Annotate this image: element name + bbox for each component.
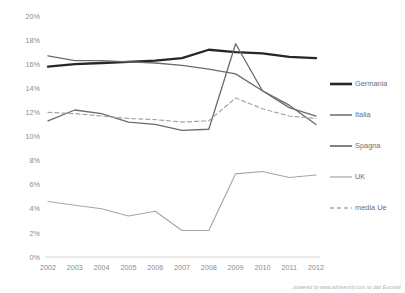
series-line-germania <box>48 50 316 67</box>
x-axis-tick-label: 2002 <box>40 263 56 272</box>
y-axis-tick-label: 20% <box>26 12 41 21</box>
y-axis-tick-label: 0% <box>30 253 41 262</box>
legend-label-germania: Germania <box>355 79 388 88</box>
footer-credit: powered by www.adviseonly.com su dati Eu… <box>294 285 401 290</box>
legend-label-italia: Italia <box>355 110 372 119</box>
x-axis-tick-label: 2006 <box>147 263 163 272</box>
legend-label-spagna: Spagna <box>355 141 381 150</box>
x-axis: 2002200320042005200620072008200920102011… <box>40 263 324 272</box>
y-axis-tick-label: 16% <box>26 60 41 69</box>
y-axis-tick-label: 12% <box>26 108 41 117</box>
chart-canvas: 0%2%4%6%8%10%12%14%16%18%20% 20022003200… <box>0 0 405 293</box>
series-line-italia <box>48 44 316 131</box>
y-axis: 0%2%4%6%8%10%12%14%16%18%20% <box>26 12 41 262</box>
x-axis-tick-label: 2003 <box>67 263 83 272</box>
x-axis-tick-label: 2010 <box>254 263 270 272</box>
x-axis-tick-label: 2012 <box>308 263 324 272</box>
legend-label-media-ue: media Ue <box>355 203 387 212</box>
series-line-uk <box>48 171 316 230</box>
x-axis-tick-label: 2011 <box>281 263 296 272</box>
series-line-spagna <box>48 56 316 125</box>
x-axis-tick-label: 2008 <box>201 263 217 272</box>
y-axis-tick-label: 10% <box>26 132 41 141</box>
x-axis-tick-label: 2005 <box>120 263 136 272</box>
y-axis-tick-label: 8% <box>30 156 41 165</box>
y-axis-tick-label: 14% <box>26 84 41 93</box>
chart-legend: GermaniaItaliaSpagnaUKmedia Ue <box>330 79 388 212</box>
x-axis-tick-label: 2007 <box>174 263 190 272</box>
y-axis-tick-label: 18% <box>26 36 41 45</box>
y-axis-tick-label: 6% <box>30 180 41 189</box>
series-line-media-ue <box>48 98 316 122</box>
y-axis-tick-label: 4% <box>30 204 41 213</box>
x-axis-tick-label: 2004 <box>94 263 110 272</box>
series-lines <box>48 44 316 231</box>
line-chart: 0%2%4%6%8%10%12%14%16%18%20% 20022003200… <box>0 0 405 293</box>
legend-label-uk: UK <box>355 172 365 181</box>
y-axis-tick-label: 2% <box>30 229 41 238</box>
x-axis-tick-label: 2009 <box>228 263 244 272</box>
